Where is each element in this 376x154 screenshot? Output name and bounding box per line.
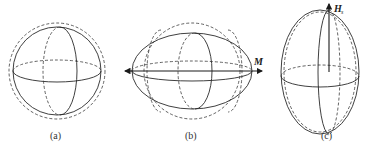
panel-c-ellipsoid: H s bbox=[281, 3, 359, 134]
equator-back bbox=[132, 61, 252, 71]
diagram-canvas: M H s (a) (b) (c) bbox=[0, 0, 376, 154]
vector-label-M: M bbox=[253, 56, 264, 67]
ellipsoid-outline bbox=[281, 10, 359, 134]
panel-b-ellipsoid: M bbox=[125, 23, 264, 119]
panel-label-a: (a) bbox=[50, 130, 61, 142]
meridian-front bbox=[60, 27, 77, 115]
meridian-back bbox=[329, 10, 340, 134]
panel-a-sphere bbox=[9, 23, 105, 119]
equator-back bbox=[281, 65, 359, 76]
meridian-back bbox=[43, 27, 60, 115]
meridian-front bbox=[318, 10, 329, 134]
equator-back bbox=[13, 60, 101, 71]
sphere-outline bbox=[13, 27, 101, 115]
equator-front bbox=[132, 71, 252, 81]
panel-label-b: (b) bbox=[185, 130, 197, 142]
reference-sphere-dashed bbox=[9, 23, 105, 119]
panel-label-c: (c) bbox=[321, 130, 332, 142]
reference-ellipsoid-dashed bbox=[284, 12, 356, 132]
vector-label-subscript-s: s bbox=[341, 9, 344, 15]
equator-front bbox=[281, 76, 359, 87]
equator-front bbox=[13, 71, 101, 82]
